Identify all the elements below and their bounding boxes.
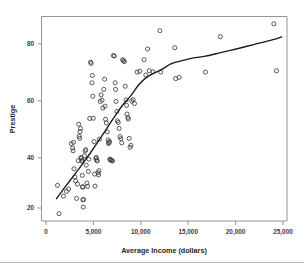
y-tick-label: 40: [27, 154, 35, 161]
x-tick-label: 15,000: [178, 228, 198, 236]
x-tick-label: 25,000: [273, 228, 293, 236]
x-tick-label: 5,000: [85, 228, 101, 236]
x-axis-title: Average Income (dollars): [121, 246, 207, 255]
y-axis-title: Prestige: [8, 105, 17, 133]
y-tick-label: 20: [27, 204, 35, 211]
scatter-plot-figure: 80 60 40 20 0 5,000 10,000 15,000 20,000…: [0, 0, 304, 269]
x-tick-label: 10,000: [131, 228, 151, 236]
y-tick-label: 80: [27, 40, 35, 47]
x-tick-label: 0: [44, 228, 48, 235]
chart-canvas: 80 60 40 20 0 5,000 10,000 15,000 20,000…: [0, 0, 304, 269]
y-tick-label: 60: [27, 97, 35, 104]
x-tick-label: 20,000: [226, 228, 246, 236]
